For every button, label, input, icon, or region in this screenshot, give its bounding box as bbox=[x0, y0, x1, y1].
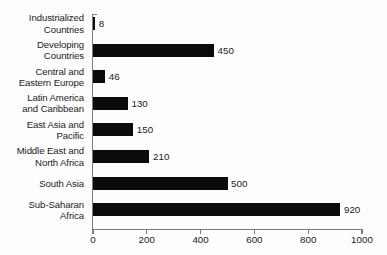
bar bbox=[93, 123, 133, 136]
x-axis-tick-label: 600 bbox=[246, 234, 262, 245]
x-axis-tick-label: 400 bbox=[192, 234, 208, 245]
bar-value-label: 46 bbox=[109, 71, 120, 82]
category-label: South Asia bbox=[0, 178, 84, 189]
x-axis-tick-label: 800 bbox=[300, 234, 316, 245]
category-label: Developing Countries bbox=[0, 39, 84, 61]
bar-chart: Industrialized CountriesDeveloping Count… bbox=[0, 0, 387, 255]
bar bbox=[93, 177, 228, 190]
category-label: East Asia and Pacific bbox=[0, 119, 84, 141]
bar-value-label: 920 bbox=[344, 204, 360, 215]
bar bbox=[93, 44, 214, 57]
category-label: Middle East and North Africa bbox=[0, 145, 84, 167]
bar-value-label: 8 bbox=[99, 18, 104, 29]
bar-value-label: 500 bbox=[231, 178, 247, 189]
category-label: Central and Eastern Europe bbox=[0, 66, 84, 88]
x-axis-tick-label: 1000 bbox=[351, 234, 373, 245]
bar bbox=[93, 203, 340, 216]
x-axis-line bbox=[92, 229, 362, 230]
category-axis-labels: Industrialized CountriesDeveloping Count… bbox=[0, 14, 88, 230]
bar bbox=[93, 150, 149, 163]
category-label: Sub-Saharan Africa bbox=[0, 199, 84, 221]
x-axis-tick-label: 0 bbox=[90, 234, 95, 245]
bar bbox=[93, 70, 105, 83]
bar-value-label: 150 bbox=[137, 124, 153, 135]
bar bbox=[93, 97, 128, 110]
bar bbox=[93, 17, 95, 30]
y-axis-top-cap bbox=[92, 14, 97, 15]
plot-area: 845046130150210500920 bbox=[93, 14, 362, 230]
category-label: Latin America and Caribbean bbox=[0, 92, 84, 114]
x-axis-tick-label: 200 bbox=[139, 234, 155, 245]
bar-value-label: 130 bbox=[131, 98, 147, 109]
bar-value-label: 210 bbox=[153, 151, 169, 162]
category-label: Industrialized Countries bbox=[0, 12, 84, 34]
bar-value-label: 450 bbox=[218, 45, 234, 56]
